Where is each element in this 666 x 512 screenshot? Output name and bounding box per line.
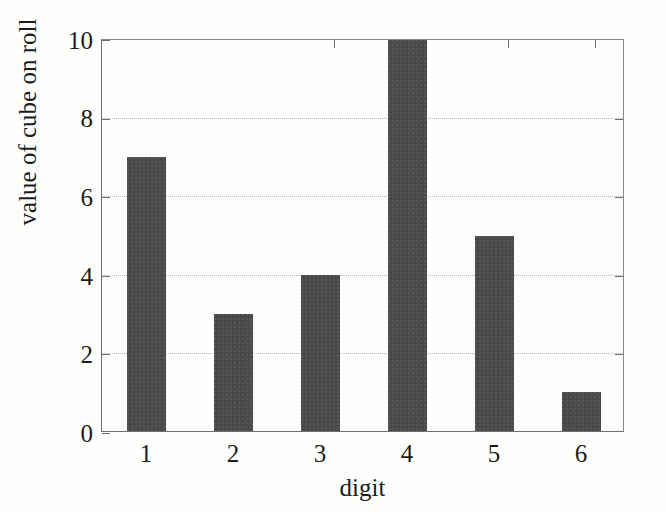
y-tick-label-10: 10 [68, 28, 93, 53]
x-tick-label-6: 6 [541, 441, 621, 466]
y-tick-4 [102, 276, 110, 277]
y-tick-label-2: 2 [81, 342, 94, 367]
gridline-4 [102, 275, 623, 276]
y-tick-0 [102, 433, 110, 434]
x-axis-title: digit [101, 474, 624, 502]
bar-digit-3[interactable] [301, 275, 340, 431]
y-tick-label-6: 6 [81, 185, 94, 210]
bar-digit-6[interactable] [562, 392, 601, 431]
y-tick-2 [102, 354, 110, 355]
x-tick-label-4: 4 [367, 441, 447, 466]
chart-page: value of cube on roll 10 8 6 4 2 0 [0, 0, 666, 512]
y-tick-right-2 [615, 354, 623, 355]
x-tick-label-1: 1 [106, 441, 186, 466]
x-tick-label-5: 5 [454, 441, 534, 466]
bar-digit-4[interactable] [388, 40, 427, 431]
plot-area [101, 39, 624, 432]
bar-digit-2[interactable] [214, 314, 253, 431]
x-tick-top-5 [508, 40, 509, 48]
gridline-6 [102, 196, 623, 197]
gridline-8 [102, 118, 623, 119]
x-tick-top-6 [595, 40, 596, 48]
y-tick-8 [102, 119, 110, 120]
x-tick-label-3: 3 [280, 441, 360, 466]
y-tick-6 [102, 197, 110, 198]
gridline-2 [102, 353, 623, 354]
x-tick-label-2: 2 [193, 441, 273, 466]
bar-digit-1[interactable] [127, 157, 166, 431]
y-tick-label-0: 0 [81, 421, 94, 446]
y-tick-right-6 [615, 197, 623, 198]
x-tick-top-3 [334, 40, 335, 48]
y-tick-10 [102, 40, 110, 41]
y-tick-label-8: 8 [81, 106, 94, 131]
y-tick-label-4: 4 [81, 264, 94, 289]
y-axis-title: value of cube on roll [14, 0, 42, 262]
y-tick-right-8 [615, 119, 623, 120]
bar-digit-5[interactable] [475, 236, 514, 432]
y-tick-right-4 [615, 276, 623, 277]
